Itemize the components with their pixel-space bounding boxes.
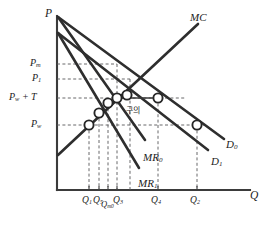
node-q3-pwt (112, 93, 121, 102)
curve-label-d0-text: D (226, 138, 234, 150)
q-label-q3-sub: 3 (120, 199, 123, 205)
curve-label-mr0: MR0 (143, 152, 162, 164)
node-mc-intersection (122, 90, 131, 99)
economics-diagram: P Q Pm P1 Pw + T Pw Q1 Q5 Qm0 Q3 Q4 Q2 M… (0, 0, 265, 228)
q-label-q4-sub: 4 (158, 199, 161, 205)
q-label-q1-sub: 1 (89, 199, 92, 205)
q-label-q4-text: Q (151, 195, 158, 205)
curve-label-d0: D0 (226, 139, 237, 151)
x-axis-label: Q (250, 190, 258, 202)
price-label-pw-sub: w (37, 122, 41, 129)
handwritten-annotation: 구의 (126, 104, 140, 115)
curve-label-mc: MC (190, 12, 207, 23)
curve-label-d1-sub: 1 (219, 160, 223, 168)
q-label-q1-text: Q (82, 195, 89, 205)
curve-label-mr0-text: MR (143, 151, 159, 163)
q-label-q2: Q2 (190, 196, 200, 206)
price-label-p1-sub: 1 (38, 76, 41, 83)
curve-label-mr1: MR1 (138, 178, 157, 190)
q-label-q1: Q1 (82, 196, 92, 206)
price-label-pm-sub: m (36, 61, 41, 68)
price-label-pm: Pm (30, 58, 41, 69)
price-label-pwt-suffix: + T (19, 91, 36, 102)
price-label-pw: Pw (31, 119, 41, 130)
y-axis-label: P (45, 8, 52, 20)
curve-label-mr1-sub: 1 (154, 182, 158, 190)
q-label-q5-text: Q (93, 195, 100, 205)
curve-label-d0-sub: 0 (234, 143, 238, 151)
price-label-pwt: Pw + T (9, 92, 37, 103)
node-qm0 (103, 98, 112, 107)
node-q2-pw (192, 120, 201, 129)
node-q5 (94, 108, 103, 117)
curve-label-mr0-sub: 0 (159, 156, 163, 164)
q-label-q3: Q3 (113, 196, 123, 206)
q-label-q2-sub: 2 (197, 199, 200, 205)
curve-label-d1-text: D (211, 155, 219, 167)
curve-mr-0 (58, 17, 145, 140)
q-label-q2-text: Q (190, 195, 197, 205)
price-label-p1: P1 (32, 73, 41, 84)
curve-mc (58, 24, 198, 155)
q-label-q4: Q4 (151, 196, 161, 206)
curve-label-mc-text: MC (190, 11, 207, 23)
node-q4-pwt (153, 93, 162, 102)
curve-label-d1: D1 (211, 156, 222, 168)
curve-label-mr1-text: MR (138, 177, 154, 189)
q-label-qm0: Qm0 (101, 200, 114, 209)
q-label-q3-text: Q (113, 195, 120, 205)
node-q1-pw (84, 120, 93, 129)
